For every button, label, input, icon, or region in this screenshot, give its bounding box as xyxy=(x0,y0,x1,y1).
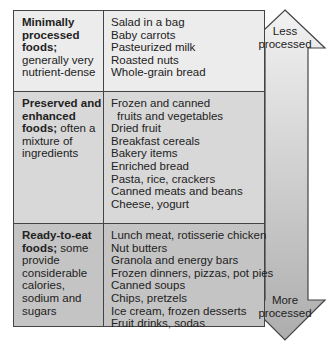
list-item: Ice cream, frozen desserts xyxy=(111,305,264,318)
list-item: Bakery items xyxy=(111,147,264,160)
list-item: Lunch meat, rotisserie chicken xyxy=(111,229,264,242)
row-preserved-enhanced: Preserved and enhanced foods; often a mi… xyxy=(14,91,264,223)
category-title: Minimally processed foods; xyxy=(22,16,80,53)
list-item: fruits and vegetables xyxy=(111,110,264,123)
row-ready-to-eat: Ready-to-eat foods; some provide conside… xyxy=(14,223,264,326)
list-item: Chips, pretzels xyxy=(111,292,264,305)
list-item: Breakfast cereals xyxy=(111,135,264,148)
items-cell: Salad in a bag Baby carrots Pasteurized … xyxy=(104,11,264,91)
label-line: processed xyxy=(245,307,325,320)
items-cell: Lunch meat, rotisserie chicken Nut butte… xyxy=(104,224,264,326)
row-minimally-processed: Minimally processed foods; generally ver… xyxy=(14,11,264,91)
items-cell: Frozen and canned fruits and vegetables … xyxy=(104,92,264,223)
list-item: Roasted nuts xyxy=(111,54,264,67)
list-item: Salad in a bag xyxy=(111,16,264,29)
list-item: Granola and energy bars xyxy=(111,254,264,267)
list-item: Dried fruit xyxy=(111,122,264,135)
category-cell: Minimally processed foods; generally ver… xyxy=(14,11,104,91)
list-item: Pasteurized milk xyxy=(111,41,264,54)
less-processed-label: Less processed xyxy=(245,25,325,50)
list-item: Nut butters xyxy=(111,242,264,255)
category-description: generally very nutrient-dense xyxy=(22,54,96,79)
more-processed-label: More processed xyxy=(245,294,325,319)
list-item: Canned meats and beans xyxy=(111,185,264,198)
list-item: Cheese, yogurt xyxy=(111,198,264,211)
list-item: Canned soups xyxy=(111,279,264,292)
category-cell: Ready-to-eat foods; some provide conside… xyxy=(14,224,104,326)
list-item: Whole-grain bread xyxy=(111,66,264,79)
category-cell: Preserved and enhanced foods; often a mi… xyxy=(14,92,104,223)
list-item: Fruit drinks, sodas xyxy=(111,317,264,330)
list-item: Frozen and canned xyxy=(111,97,264,110)
food-processing-table: Minimally processed foods; generally ver… xyxy=(13,10,265,327)
list-item: Frozen dinners, pizzas, pot pies xyxy=(111,267,264,280)
label-line: Less xyxy=(245,25,325,38)
list-item: Pasta, rice, crackers xyxy=(111,173,264,186)
label-line: More xyxy=(245,294,325,307)
list-item: Enriched bread xyxy=(111,160,264,173)
label-line: processed xyxy=(245,38,325,51)
list-item: Baby carrots xyxy=(111,29,264,42)
